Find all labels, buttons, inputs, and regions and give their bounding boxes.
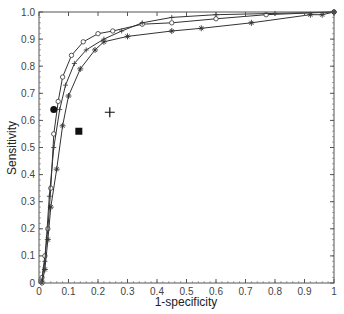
x-tick-label: 0.1 [62,286,76,297]
star-marker [60,123,66,129]
y-tick-label: 1.0 [21,7,35,18]
circle-marker [49,186,53,190]
x-tick-label: 0.7 [239,286,253,297]
star-marker [198,25,204,31]
x-tick-label: 0.9 [298,286,312,297]
x-axis-label: 1-specificity [155,295,218,309]
x-tick-label: 0 [36,286,42,297]
star-marker [125,33,131,39]
circle-marker [96,31,100,35]
y-tick-label: 0.1 [21,250,35,261]
plus-marker [169,15,174,20]
plus-marker [63,83,68,88]
plus-point [105,107,115,117]
y-tick-label: 0 [29,278,35,289]
x-tick-label: 0.3 [121,286,135,297]
y-tick-label: 0.2 [21,223,35,234]
plus-marker [47,194,52,199]
y-tick-label: 0.3 [21,196,35,207]
curve-star [39,9,337,286]
series-layer [39,9,337,286]
filled-square-point [75,128,82,135]
y-tick-label: 0.4 [21,169,35,180]
y-tick-label: 0.6 [21,115,35,126]
star-marker [66,93,72,99]
circle-marker [214,17,218,21]
x-tick-label: 0.2 [91,286,105,297]
star-marker [54,166,60,172]
star-marker [248,20,254,26]
circle-marker [170,21,174,25]
roc-chart: 00.10.20.30.40.50.60.70.80.9100.10.20.30… [0,0,344,314]
x-tick-label: 0.8 [268,286,282,297]
circle-marker [111,29,115,33]
circle-marker [81,40,85,44]
y-tick-label: 0.7 [21,88,35,99]
curve-plus [39,10,336,283]
plus-marker [57,107,62,112]
y-tick-label: 0.5 [21,142,35,153]
axes: 00.10.20.30.40.50.60.70.80.9100.10.20.30… [21,7,337,298]
circle-marker [69,53,73,57]
circle-marker [56,99,60,103]
y-tick-label: 0.9 [21,34,35,45]
y-axis-label: Sensitivity [5,121,19,175]
x-tick-label: 1 [331,286,337,297]
circle-marker [60,75,64,79]
curve-star-line [42,12,334,283]
plus-marker [42,259,47,264]
star-marker [169,28,175,34]
plus-marker [51,145,56,150]
filled-circle-point [50,106,57,113]
y-tick-label: 0.8 [21,61,35,72]
